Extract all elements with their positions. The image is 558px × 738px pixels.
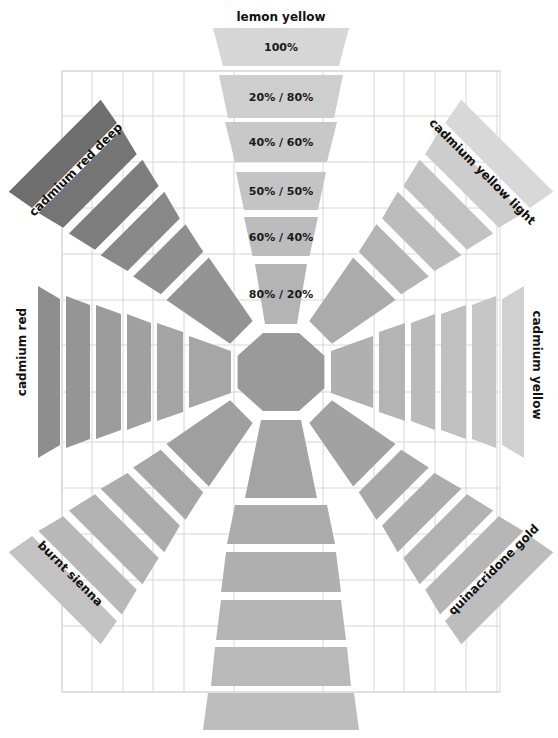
mix-swatch bbox=[96, 305, 121, 439]
mix-ratio-label: 20% / 80% bbox=[249, 91, 313, 104]
mix-swatch bbox=[472, 296, 496, 448]
mix-swatch bbox=[379, 323, 405, 421]
mix-ratio-label: 50% / 50% bbox=[249, 185, 313, 198]
mix-swatch bbox=[38, 286, 60, 458]
mix-swatch bbox=[227, 505, 335, 544]
mix-swatch bbox=[211, 647, 351, 686]
mix-swatch bbox=[66, 296, 90, 448]
mix-swatch bbox=[502, 286, 524, 458]
pigment-label: cadmium red bbox=[15, 308, 29, 396]
mix-swatch bbox=[221, 552, 341, 592]
mix-ratio-label: 100% bbox=[264, 41, 298, 54]
arm-bottom-unlabeled- bbox=[203, 420, 359, 730]
mix-swatch bbox=[331, 336, 373, 408]
pigment-label: lemon yellow bbox=[236, 10, 325, 24]
mix-swatch bbox=[411, 314, 435, 430]
pigment-label: cadmium yellow bbox=[530, 310, 544, 419]
mix-swatch bbox=[189, 336, 231, 408]
center-octagon-swatch bbox=[238, 333, 325, 411]
mix-ratio-label: 80% / 20% bbox=[249, 288, 313, 301]
arm-lemon-yellow: 100%20% / 80%40% / 60%50% / 50%60% / 40%… bbox=[213, 28, 349, 324]
mix-swatch bbox=[441, 305, 466, 439]
mix-ratio-label: 60% / 40% bbox=[249, 231, 313, 244]
mix-swatch bbox=[157, 323, 183, 421]
mix-swatch bbox=[216, 600, 346, 640]
mix-swatch bbox=[203, 693, 359, 730]
color-mixing-wheel: 100%20% / 80%40% / 60%50% / 50%60% / 40%… bbox=[0, 0, 558, 738]
mix-swatch bbox=[127, 314, 151, 430]
mix-ratio-label: 40% / 60% bbox=[249, 136, 313, 149]
mix-swatch bbox=[245, 420, 317, 498]
